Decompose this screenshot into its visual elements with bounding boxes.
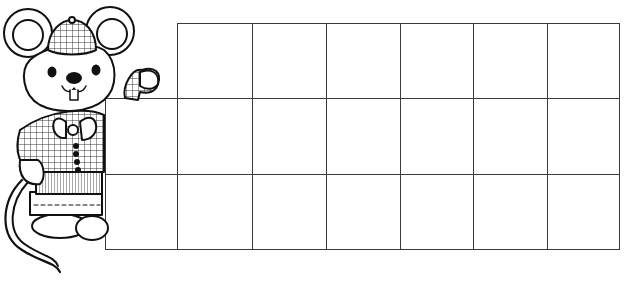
grid-cell [326,174,401,250]
grid-cell [326,98,401,175]
grid-cell [400,98,474,175]
grid-cell [105,98,178,175]
grid-cell [400,174,474,250]
grid-cell [177,174,253,250]
grid-cell [252,98,327,175]
grid-cell [473,174,548,250]
coloring-page [0,0,624,281]
grid-cell [473,23,548,99]
grid-cell [252,174,327,250]
grid-cell [400,23,474,99]
grid-cell [252,23,327,99]
grid-cell [473,98,548,175]
grid-cell [177,23,253,99]
grid-cell [547,174,620,250]
grid-cell [177,98,253,175]
grid-cell [547,98,620,175]
grid-cell [105,174,178,250]
grid-cell [547,23,620,99]
grid-cell [326,23,401,99]
